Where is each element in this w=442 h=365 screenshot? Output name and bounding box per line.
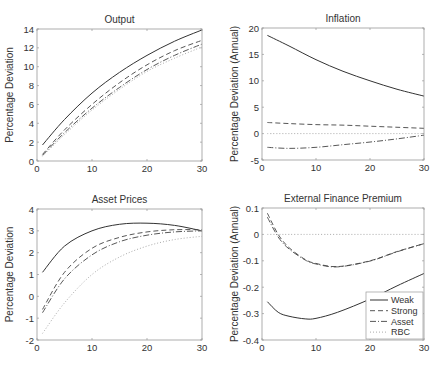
x-tick-label: 30: [197, 163, 208, 174]
x-tick-label: 30: [419, 342, 430, 353]
series-line-strong: [43, 230, 203, 310]
x-tick-label: 10: [311, 162, 322, 173]
y-tick-label: 15: [248, 49, 259, 60]
series-line-asset: [43, 231, 203, 313]
chart-title: Asset Prices: [92, 194, 148, 205]
y-tick-label: -0.2: [243, 282, 259, 293]
x-tick-label: 0: [259, 162, 264, 173]
y-axis-label: Percentage Deviation: [4, 47, 15, 143]
y-tick-label: 1: [29, 269, 34, 280]
axes-frame: [37, 209, 202, 340]
y-tick-label: -0.4: [243, 335, 259, 346]
series-line-rbc: [43, 47, 203, 156]
series-line-asset: [43, 44, 203, 155]
legend-label-rbc: RBC: [391, 327, 411, 337]
x-tick-label: 20: [365, 342, 376, 353]
y-axis-label: Percentage Deviation (Annual): [229, 206, 240, 342]
x-tick-label: 0: [34, 163, 39, 174]
y-tick-label: 10: [248, 75, 259, 86]
y-tick-label: 5: [254, 102, 259, 113]
chart-title: External Finance Premium: [284, 193, 402, 204]
y-tick-label: -0.1: [243, 255, 259, 266]
y-tick-label: 3: [29, 225, 34, 236]
series-line-asset: [267, 135, 424, 148]
legend-label-asset: Asset: [391, 317, 414, 327]
legend-label-weak: Weak: [391, 295, 414, 305]
x-tick-label: 20: [142, 163, 153, 174]
series-line-asset: [267, 217, 424, 267]
y-tick-label: 10: [23, 61, 34, 72]
x-tick-label: 10: [87, 163, 98, 174]
legend: WeakStrongAssetRBC: [366, 292, 423, 339]
x-tick-label: 20: [142, 342, 153, 353]
y-tick-label: 2: [29, 247, 34, 258]
y-tick-label: -2: [26, 335, 34, 346]
series-line-strong: [267, 123, 424, 129]
chart-title: Inflation: [325, 13, 360, 24]
y-tick-label: 14: [23, 24, 34, 35]
subplot-asset-prices: Asset PricesPercentage Deviation0102030-…: [4, 194, 207, 353]
y-tick-label: 0: [29, 291, 34, 302]
x-tick-label: 0: [259, 342, 264, 353]
y-axis-label: Percentage Deviation: [4, 227, 15, 323]
series-line-weak: [43, 223, 203, 272]
chart-title: Output: [104, 14, 134, 25]
y-tick-label: 4: [29, 204, 34, 215]
axes-frame: [37, 29, 202, 161]
series-line-strong: [43, 40, 203, 154]
y-tick-label: 0.1: [246, 203, 259, 214]
x-tick-label: 20: [365, 162, 376, 173]
y-tick-label: -0.3: [243, 308, 259, 319]
series-line-rbc: [43, 236, 203, 333]
y-tick-label: 8: [29, 80, 34, 91]
axes-frame: [262, 28, 424, 160]
x-tick-label: 10: [311, 342, 322, 353]
subplot-output: OutputPercentage Deviation01020300246810…: [4, 14, 207, 174]
y-tick-label: 12: [23, 42, 34, 53]
y-tick-label: 20: [248, 23, 259, 34]
subplot-inflation: InflationPercentage Deviation (Annual)01…: [229, 13, 429, 173]
legend-label-strong: Strong: [391, 306, 418, 316]
y-tick-label: -5: [251, 155, 259, 166]
y-tick-label: 0: [254, 128, 259, 139]
y-tick-label: 0: [29, 156, 34, 167]
x-tick-label: 10: [87, 342, 98, 353]
x-tick-label: 30: [197, 342, 208, 353]
y-tick-label: -1: [26, 313, 34, 324]
series-line-weak: [267, 35, 424, 96]
series-line-strong: [267, 213, 424, 266]
y-tick-label: 6: [29, 99, 34, 110]
impulse-response-figure: OutputPercentage Deviation01020300246810…: [0, 0, 442, 365]
y-tick-label: 4: [29, 118, 34, 129]
y-axis-label: Percentage Deviation (Annual): [229, 26, 240, 162]
y-tick-label: 0: [254, 229, 259, 240]
x-tick-label: 30: [419, 162, 430, 173]
x-tick-label: 0: [34, 342, 39, 353]
y-tick-label: 2: [29, 137, 34, 148]
